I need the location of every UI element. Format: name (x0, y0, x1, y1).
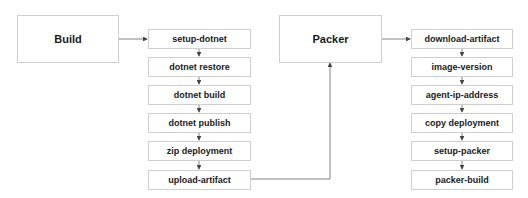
step-label: agent-ip-address (426, 90, 499, 100)
step-label: dotnet restore (169, 62, 230, 72)
stage-build-label: Build (54, 33, 82, 45)
step-label: setup-dotnet (172, 34, 227, 44)
packer-step-setup-packer: setup-packer (411, 141, 513, 161)
packer-step-agent-ip-address: agent-ip-address (411, 85, 513, 105)
packer-step-download-artifact: download-artifact (411, 29, 513, 49)
stage-packer: Packer (279, 15, 382, 63)
build-step-upload-artifact: upload-artifact (148, 170, 251, 190)
step-label: download-artifact (424, 34, 499, 44)
stage-build: Build (17, 15, 119, 63)
stage-packer-label: Packer (312, 33, 348, 45)
step-label: dotnet publish (169, 118, 231, 128)
step-label: copy deployment (425, 118, 499, 128)
step-label: zip deployment (167, 146, 233, 156)
packer-step-image-version: image-version (411, 57, 513, 77)
packer-step-copy-deployment: copy deployment (411, 113, 513, 133)
build-step-setup-dotnet: setup-dotnet (148, 29, 251, 49)
build-step-dotnet-restore: dotnet restore (148, 57, 251, 77)
build-step-zip-deployment: zip deployment (148, 141, 251, 161)
build-step-dotnet-build: dotnet build (148, 85, 251, 105)
packer-step-packer-build: packer-build (411, 170, 513, 190)
build-step-dotnet-publish: dotnet publish (148, 113, 251, 133)
step-label: dotnet build (174, 90, 226, 100)
step-label: image-version (431, 62, 492, 72)
step-label: setup-packer (434, 146, 490, 156)
step-label: upload-artifact (168, 175, 231, 185)
step-label: packer-build (435, 175, 489, 185)
